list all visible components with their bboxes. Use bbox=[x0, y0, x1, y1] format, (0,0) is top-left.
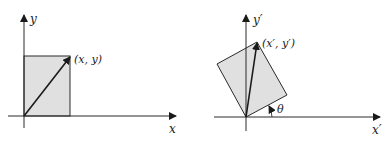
x-prime-axis-label: x′ bbox=[372, 123, 382, 137]
angle-arc bbox=[269, 106, 272, 117]
rotated-point-label: (x′, y′) bbox=[262, 37, 295, 50]
theta-label: θ bbox=[277, 103, 284, 116]
x-axis-label: x bbox=[169, 122, 176, 136]
y-axis-label: y bbox=[29, 12, 37, 26]
left-diagram: y x (x, y) bbox=[8, 12, 176, 136]
y-prime-axis-label: y′ bbox=[252, 13, 263, 27]
point-label: (x, y) bbox=[74, 53, 102, 66]
rotation-diagram: y x (x, y) y′ x′ (x′, y′) θ bbox=[0, 0, 389, 144]
right-diagram: y′ x′ (x′, y′) θ bbox=[214, 13, 382, 137]
